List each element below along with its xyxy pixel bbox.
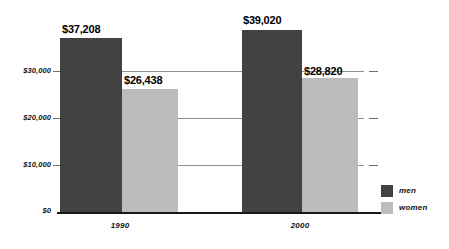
tick-right-10000 — [369, 165, 378, 166]
bar-women-1990[interactable] — [122, 89, 178, 213]
legend-item-women[interactable]: women — [381, 200, 428, 215]
ytick-label-0: $0 — [0, 207, 51, 215]
bar-men-1990[interactable] — [60, 38, 122, 213]
tick-right-30000 — [369, 71, 378, 72]
x-axis-line — [57, 212, 382, 214]
tick-right-20000 — [369, 118, 378, 119]
bar-label-women-1990: $26,438 — [124, 75, 162, 86]
legend-label-men: men — [399, 187, 416, 195]
bar-label-men-1990: $37,208 — [62, 24, 100, 35]
category-label-1990: 1990 — [95, 222, 145, 230]
ytick-label-10000: $10,000 — [0, 161, 51, 169]
legend-swatch-women-icon — [381, 202, 393, 214]
bar-label-men-2000: $39,020 — [243, 15, 281, 26]
legend-swatch-men-icon — [381, 185, 393, 197]
bar-label-women-2000: $28,820 — [304, 66, 342, 77]
ytick-label-30000: $30,000 — [0, 67, 51, 75]
bar-men-2000[interactable] — [242, 30, 302, 213]
ytick-label-20000: $20,000 — [0, 114, 51, 122]
bar-women-2000[interactable] — [302, 78, 358, 213]
legend-label-women: women — [399, 204, 428, 212]
legend-item-men[interactable]: men — [381, 183, 428, 198]
bar-chart: $30,000 $20,000 $10,000 $0 $37,208 $26,4… — [0, 0, 449, 249]
category-label-2000: 2000 — [275, 222, 325, 230]
legend: men women — [381, 183, 428, 217]
